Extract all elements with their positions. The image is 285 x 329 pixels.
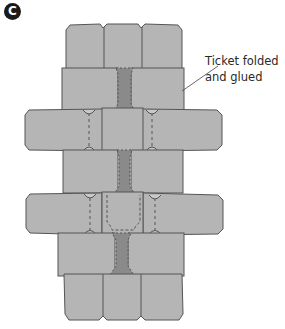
wide-row-1 [25, 108, 222, 151]
bottom-row [64, 274, 183, 320]
link-row-3 [58, 233, 184, 276]
callout-label: Ticket folded and glued [205, 53, 279, 85]
link-row-2 [63, 150, 183, 193]
ticket-chain-diagram [0, 0, 285, 329]
callout-line-1: Ticket folded [205, 53, 279, 69]
link-row-1 [62, 68, 184, 111]
wide-row-2 [26, 192, 223, 235]
top-row [66, 24, 182, 70]
callout-line-2: and glued [205, 69, 279, 85]
